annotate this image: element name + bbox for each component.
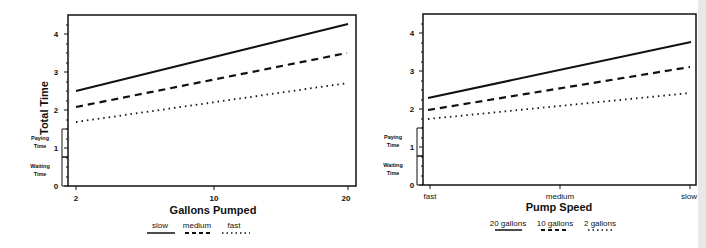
right-ytick-2: 2 <box>410 105 415 114</box>
left-paying-label-2: Time <box>34 143 47 149</box>
right-plot-frame <box>423 14 696 185</box>
charts-canvas: 0 1 2 3 4 Total Time Paying Time Waiting… <box>0 0 706 248</box>
left-y-axis-label: Total Time <box>38 81 50 135</box>
right-waiting-bracket <box>417 156 423 185</box>
right-xtick-slow: slow <box>681 192 697 201</box>
left-legend-medium: medium <box>183 221 212 230</box>
left-xtick-10: 10 <box>210 194 219 203</box>
right-paying-bracket <box>417 128 423 156</box>
left-waiting-bracket <box>62 157 68 186</box>
right-legend-2-gallons: 2 gallons <box>584 219 616 228</box>
right-waiting-label-1: Waiting <box>383 162 403 168</box>
left-series-fast <box>76 83 348 122</box>
left-paying-label-1: Paying <box>31 135 49 141</box>
left-waiting-label-2: Time <box>34 171 47 177</box>
right-xtick-medium: medium <box>546 192 575 201</box>
right-series-10-gallons <box>428 67 690 110</box>
right-legend: 20 gallons 10 gallons 2 gallons <box>490 219 616 230</box>
scan-edge <box>698 0 706 248</box>
left-ytick-2: 2 <box>54 106 59 115</box>
left-ytick-1: 1 <box>54 144 59 153</box>
left-ytick-4: 4 <box>54 30 59 39</box>
right-legend-20-gallons: 20 gallons <box>490 219 526 228</box>
right-ytick-1: 1 <box>410 143 415 152</box>
left-chart: 0 1 2 3 4 Total Time Paying Time Waiting… <box>30 15 356 233</box>
left-legend-slow: slow <box>152 221 168 230</box>
right-ytick-3: 3 <box>410 67 415 76</box>
left-xtick-20: 20 <box>342 194 351 203</box>
left-waiting-label-1: Waiting <box>30 163 50 169</box>
right-x-axis-label: Pump Speed <box>526 201 593 213</box>
left-legend: slow medium fast <box>147 221 250 233</box>
right-chart: 0 1 2 3 4 Paying Time Waiting Time fast … <box>383 14 697 230</box>
right-waiting-label-2: Time <box>387 170 400 176</box>
right-series-20-gallons <box>428 42 691 98</box>
left-xtick-2: 2 <box>74 194 79 203</box>
right-xtick-fast: fast <box>424 192 438 201</box>
right-series-2-gallons <box>428 93 690 119</box>
right-paying-label-2: Time <box>387 142 400 148</box>
right-ytick-4: 4 <box>410 29 415 38</box>
right-ytick-0: 0 <box>410 181 415 190</box>
right-legend-10-gallons: 10 gallons <box>537 219 573 228</box>
left-legend-fast: fast <box>228 221 242 230</box>
left-ytick-0: 0 <box>54 182 59 191</box>
left-x-axis-label: Gallons Pumped <box>170 204 257 216</box>
left-plot-frame <box>68 15 356 186</box>
left-paying-bracket <box>62 129 68 157</box>
right-paying-label-1: Paying <box>384 134 402 140</box>
left-ytick-3: 3 <box>54 68 59 77</box>
